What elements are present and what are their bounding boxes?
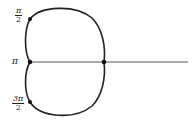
point-3pi-over-2 — [28, 100, 32, 104]
label-3pi-over-2: 3π 2 — [12, 95, 24, 112]
label-pi-over-2: π 2 — [15, 7, 22, 24]
point-zero — [102, 60, 107, 65]
point-pi — [28, 60, 33, 65]
cardioid-diagram — [0, 0, 196, 120]
label-pi: π — [12, 57, 18, 66]
label-denominator: 2 — [16, 16, 21, 24]
label-denominator: 2 — [16, 104, 21, 112]
point-pi-over-2 — [28, 17, 32, 21]
